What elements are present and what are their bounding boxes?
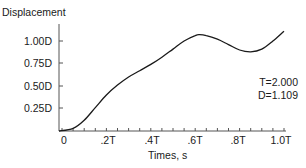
x-axis-ticks	[62, 128, 284, 131]
displacement-curve	[59, 31, 284, 131]
plot-area	[0, 0, 306, 168]
displacement-chart: Displacement 1.00D 0.75D 0.50D 0.25D 0 .…	[0, 0, 306, 168]
